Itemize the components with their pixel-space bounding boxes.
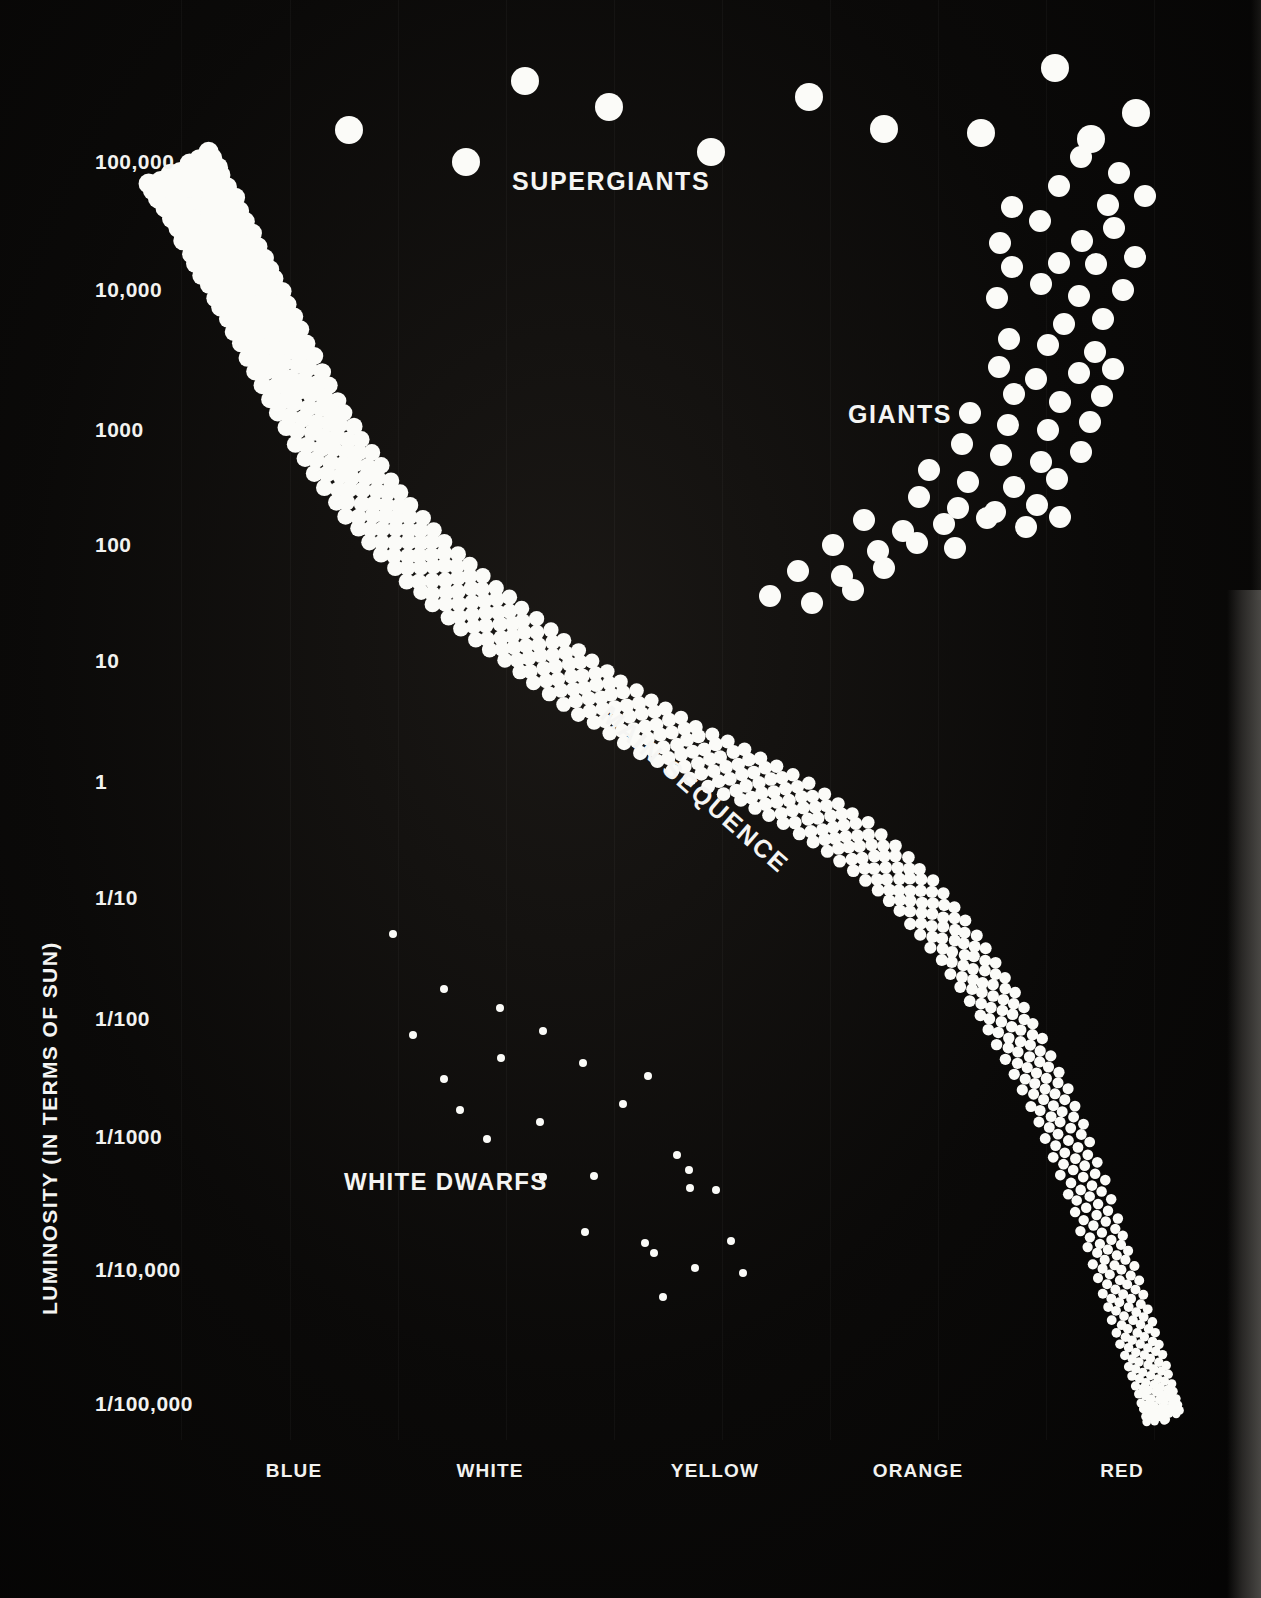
- star-white-dwarf: [483, 1135, 491, 1143]
- star-main-sequence: [889, 850, 902, 863]
- star-main-sequence: [1090, 1168, 1101, 1179]
- star-main-sequence: [1024, 1051, 1035, 1062]
- star-giant: [1112, 279, 1134, 301]
- star-white-dwarf: [497, 1054, 505, 1062]
- star-main-sequence: [1112, 1250, 1122, 1260]
- star-main-sequence: [1134, 1276, 1144, 1286]
- star-main-sequence: [847, 864, 860, 877]
- star-giant: [787, 560, 809, 582]
- star-main-sequence: [944, 968, 956, 980]
- y-tick-label: 10: [95, 649, 119, 673]
- star-white-dwarf: [496, 1004, 504, 1012]
- star-main-sequence: [862, 816, 875, 829]
- star-main-sequence: [926, 908, 938, 920]
- star-giant: [1025, 368, 1047, 390]
- star-giant: [873, 557, 895, 579]
- star-main-sequence: [959, 914, 971, 926]
- star-supergiant: [795, 83, 823, 111]
- star-giant: [1103, 217, 1125, 239]
- star-giant: [1003, 383, 1025, 405]
- star-giant: [1030, 273, 1052, 295]
- y-tick-label: 1/10: [95, 886, 138, 910]
- star-main-sequence: [868, 862, 881, 875]
- star-main-sequence: [948, 912, 960, 924]
- star-main-sequence: [1096, 1186, 1107, 1197]
- star-main-sequence: [1007, 1009, 1019, 1021]
- star-main-sequence: [1087, 1180, 1098, 1191]
- star-scatter-field: [0, 0, 1261, 1598]
- star-main-sequence: [1058, 1159, 1069, 1170]
- star-main-sequence: [948, 901, 960, 913]
- star-main-sequence: [777, 817, 790, 830]
- star-main-sequence: [1027, 1018, 1038, 1029]
- star-main-sequence: [1033, 1117, 1044, 1128]
- star-main-sequence: [967, 963, 979, 975]
- star-giant: [989, 232, 1011, 254]
- star-main-sequence: [878, 850, 891, 863]
- y-tick-label: 1/10,000: [95, 1258, 181, 1282]
- y-tick-label: 1/1000: [95, 1125, 162, 1149]
- star-main-sequence: [797, 801, 810, 814]
- star-main-sequence: [1068, 1112, 1079, 1123]
- star-main-sequence: [1070, 1101, 1081, 1112]
- star-main-sequence: [1059, 1147, 1070, 1158]
- star-giant: [1048, 175, 1070, 197]
- star-main-sequence: [1101, 1216, 1111, 1226]
- star-supergiant: [1122, 99, 1150, 127]
- y-tick-label: 1000: [95, 418, 144, 442]
- star-white-dwarf: [440, 985, 448, 993]
- star-main-sequence: [1015, 1036, 1026, 1047]
- star-main-sequence: [1055, 1170, 1066, 1181]
- star-main-sequence: [1129, 1261, 1139, 1271]
- star-main-sequence: [927, 897, 939, 909]
- star-main-sequence: [1092, 1157, 1103, 1168]
- star-main-sequence: [924, 942, 936, 954]
- star-main-sequence: [779, 782, 792, 795]
- star-main-sequence: [1071, 1195, 1082, 1206]
- star-main-sequence: [786, 768, 799, 781]
- x-tick-label: RED: [1100, 1460, 1144, 1482]
- star-white-dwarf: [650, 1249, 658, 1257]
- x-tick-label: ORANGE: [873, 1460, 964, 1482]
- star-main-sequence: [1053, 1129, 1064, 1140]
- star-main-sequence: [818, 787, 831, 800]
- star-supergiant: [1041, 54, 1069, 82]
- star-supergiant: [967, 119, 995, 147]
- star-main-sequence: [1111, 1306, 1121, 1316]
- star-main-sequence: [999, 972, 1011, 984]
- star-main-sequence: [453, 621, 469, 637]
- star-giant: [1029, 210, 1051, 232]
- star-white-dwarf: [641, 1239, 649, 1247]
- star-main-sequence: [990, 957, 1002, 969]
- star-main-sequence: [1103, 1245, 1113, 1255]
- star-main-sequence: [1049, 1088, 1060, 1099]
- star-main-sequence: [1106, 1235, 1116, 1245]
- star-supergiant: [595, 93, 623, 121]
- y-tick-label: 1/100,000: [95, 1392, 193, 1416]
- star-main-sequence: [478, 618, 493, 633]
- star-white-dwarf: [644, 1072, 652, 1080]
- star-main-sequence: [1105, 1269, 1115, 1279]
- star-white-dwarf: [739, 1269, 747, 1277]
- star-main-sequence: [1012, 1046, 1023, 1057]
- star-main-sequence: [1081, 1203, 1091, 1213]
- star-giant: [1053, 313, 1075, 335]
- star-main-sequence: [872, 884, 885, 897]
- star-main-sequence: [589, 677, 604, 692]
- star-main-sequence: [904, 918, 916, 930]
- y-tick-label: 1: [95, 770, 107, 794]
- star-giant: [1085, 253, 1107, 275]
- star-main-sequence: [985, 1002, 997, 1014]
- star-main-sequence: [859, 874, 872, 887]
- star-main-sequence: [1065, 1123, 1076, 1134]
- y-tick-label: 100: [95, 533, 132, 557]
- star-main-sequence: [1082, 1149, 1093, 1160]
- star-main-sequence: [529, 611, 544, 626]
- star-main-sequence: [1093, 1199, 1103, 1209]
- star-main-sequence: [1172, 1409, 1181, 1418]
- star-main-sequence: [902, 851, 915, 864]
- star-main-sequence: [1029, 1078, 1040, 1089]
- star-main-sequence: [1031, 1067, 1042, 1078]
- star-main-sequence: [1078, 1119, 1089, 1130]
- star-main-sequence: [1063, 1135, 1074, 1146]
